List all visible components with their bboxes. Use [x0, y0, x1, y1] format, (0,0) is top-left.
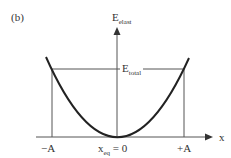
- tick-minus-a: −A: [41, 143, 55, 154]
- e-total-label-main: E: [122, 62, 129, 74]
- y-axis-label-sub: elast: [119, 18, 132, 26]
- y-axis-label: Eelast: [112, 12, 132, 26]
- x-axis-arrow-icon: [205, 134, 213, 141]
- tick-plus-a: +A: [177, 143, 191, 154]
- e-total-label-sub: total: [129, 69, 141, 77]
- panel-label: (b): [11, 12, 24, 23]
- x-axis-label: x: [219, 132, 225, 143]
- tick-equilibrium: xeq = 0: [98, 143, 127, 157]
- tick-eq-rest: = 0: [110, 142, 127, 154]
- energy-diagram: (b) Eelast Etotal x −A xeq = 0 +A: [0, 0, 231, 158]
- y-axis-arrow-icon: [114, 27, 121, 35]
- e-total-label: Etotal: [120, 63, 143, 77]
- y-axis-label-main: E: [112, 11, 119, 23]
